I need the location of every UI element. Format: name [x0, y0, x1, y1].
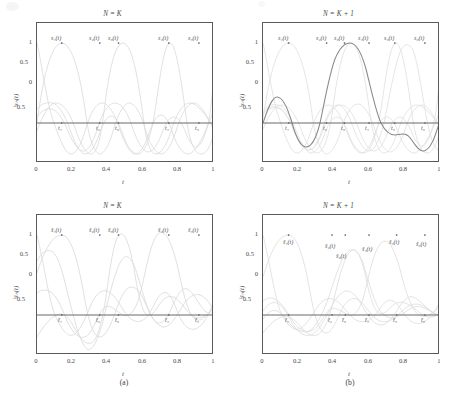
- x-tick: 0.4: [95, 357, 117, 364]
- panel-title: N = K + 1: [226, 10, 451, 18]
- panel-top-right: N = K + 1: [226, 8, 451, 196]
- x-tick: 0.4: [321, 357, 343, 364]
- y-tick: 1: [10, 38, 32, 45]
- plot-curves: [263, 23, 439, 162]
- curve-label: s₆(t): [414, 34, 424, 41]
- sample-label: t₃: [341, 124, 345, 131]
- panel-title: N = K + 1: [226, 202, 451, 210]
- figure-signal-kernels: N = K: [0, 0, 451, 407]
- curve-label: s̃₁(t): [283, 238, 293, 245]
- x-tick: 0.4: [321, 165, 343, 172]
- y-tick: 1: [10, 230, 32, 237]
- curve-label: s̃₃(t): [336, 252, 346, 259]
- curve-label: s̃₄(t): [158, 226, 168, 233]
- curve-label: s₁(t): [51, 34, 61, 41]
- sample-label: t̃₄: [165, 316, 169, 323]
- x-tick: 0.2: [286, 357, 308, 364]
- y-tick: 0: [236, 270, 258, 277]
- x-tick: 0.6: [357, 165, 379, 172]
- curve-label: s₅(t): [384, 34, 394, 41]
- sample-label: t₁: [58, 124, 62, 131]
- panel-bottom-right: N = K + 1: [226, 200, 451, 388]
- y-tick: 0.5: [232, 58, 254, 65]
- x-tick: 1: [428, 357, 450, 364]
- plot-curves: [37, 215, 213, 354]
- x-axis-label: t: [122, 370, 124, 378]
- y-tick: 0: [10, 270, 32, 277]
- x-tick: 0.6: [131, 357, 153, 364]
- x-axis-label: t: [122, 178, 124, 186]
- panel-top-left: N = K: [0, 8, 225, 196]
- x-tick: 0: [25, 165, 47, 172]
- y-axis-label: s̃ₙ(t): [238, 286, 246, 298]
- subfigure-caption-b: (b): [330, 378, 370, 387]
- y-tick: 0.5: [6, 250, 28, 257]
- y-axis-label: sₙ(t): [238, 94, 246, 106]
- curve-label: s̃₃(t): [108, 226, 118, 233]
- y-tick: 1: [236, 38, 258, 45]
- curve-label: s₂(t): [316, 34, 326, 41]
- sample-label: t̃₅: [393, 316, 397, 323]
- panel-bottom-left: N = K: [0, 200, 225, 388]
- sample-label: t̃₁: [58, 316, 62, 323]
- plot-area: [262, 22, 439, 162]
- sample-label: t̃₄: [365, 316, 369, 323]
- x-tick: 1: [428, 165, 450, 172]
- x-tick: 0.6: [131, 165, 153, 172]
- sample-label: t̃₃: [342, 316, 346, 323]
- x-tick: 1: [202, 165, 224, 172]
- x-axis-label: t: [348, 370, 350, 378]
- y-tick: 1: [236, 230, 258, 237]
- plot-area: [36, 214, 213, 354]
- x-tick: 0.8: [166, 165, 188, 172]
- x-tick: 0.8: [392, 165, 414, 172]
- curve-label: s̃₆(t): [416, 240, 426, 247]
- y-axis-label: sₙ(t): [12, 94, 20, 106]
- curve-label: s̃₂(t): [89, 226, 99, 233]
- plot-area: [262, 214, 439, 354]
- sample-label: t₃: [115, 124, 119, 131]
- x-tick: 0.8: [392, 357, 414, 364]
- sample-label: t̃₂: [328, 316, 332, 323]
- y-axis-label: s̃ₙ(t): [12, 286, 20, 298]
- sample-label: t̃₃: [115, 316, 119, 323]
- sample-label: t₆: [421, 124, 425, 131]
- sample-label: t₂: [323, 124, 327, 131]
- sample-label: t̃₂: [96, 316, 100, 323]
- curve-label: s̃₅(t): [188, 226, 198, 233]
- panel-title: N = K: [0, 10, 225, 18]
- sample-label: t₄: [165, 124, 169, 131]
- y-tick: 0: [236, 78, 258, 85]
- plot-curves: [263, 215, 439, 354]
- curve-label: s₅(t): [188, 34, 198, 41]
- sample-label: t₂: [96, 124, 100, 131]
- y-tick: 0.5: [6, 58, 28, 65]
- sample-label: t̃₁: [285, 316, 289, 323]
- x-tick: 0.2: [60, 165, 82, 172]
- curve-label: s₄(t): [158, 34, 168, 41]
- sample-label: t₄: [365, 124, 369, 131]
- subfigure-caption-a: (a): [104, 378, 144, 387]
- panel-title: N = K: [0, 202, 225, 210]
- x-tick: 0: [251, 357, 273, 364]
- x-tick: 0: [25, 357, 47, 364]
- curve-label: s̃₂(t): [325, 242, 335, 249]
- scan-artifact: [258, 1, 265, 7]
- sample-label: t̃₆: [421, 316, 425, 323]
- x-axis-label: t: [348, 178, 350, 186]
- curve-label: s₁(t): [278, 34, 288, 41]
- sample-label: t₅: [391, 124, 395, 131]
- y-tick: 0.5: [232, 250, 254, 257]
- x-tick: 0.6: [357, 357, 379, 364]
- x-tick: 0: [251, 165, 273, 172]
- sample-label: t₁: [285, 124, 289, 131]
- x-tick: 1: [202, 357, 224, 364]
- curve-label: s̃₅(t): [389, 238, 399, 245]
- sample-label: t₅: [195, 124, 199, 131]
- x-tick: 0.8: [166, 357, 188, 364]
- x-tick: 0.4: [95, 165, 117, 172]
- plot-area: [36, 22, 213, 162]
- curve-label: s̃₁(t): [51, 226, 61, 233]
- curve-label: s̃₄(t): [362, 245, 372, 252]
- y-tick: 0: [10, 78, 32, 85]
